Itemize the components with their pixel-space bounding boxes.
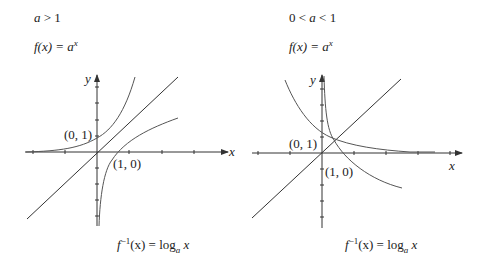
inverse-arg: (x) = log xyxy=(130,237,176,252)
y-axis-label: y xyxy=(308,72,316,87)
graphs-canvas: y x (0, 1) (1, 0) xyxy=(0,0,480,267)
inverse-function-left: f−1(x) = loga x xyxy=(117,236,189,255)
identity-line xyxy=(27,77,178,219)
point-0-1-label: (0, 1) xyxy=(289,136,317,151)
point-1-0-label: (1, 0) xyxy=(325,164,353,179)
log-var: x xyxy=(408,237,417,252)
inverse-exponent: −1 xyxy=(121,236,131,246)
x-axis-label: x xyxy=(448,158,455,173)
x-axis-label: x xyxy=(228,144,235,159)
inverse-function-right: f−1(x) = loga x xyxy=(345,236,417,255)
point-1-0-label: (1, 0) xyxy=(113,156,141,171)
inverse-exponent: −1 xyxy=(349,236,359,246)
y-axis-label: y xyxy=(83,71,91,86)
logarithm-curve xyxy=(99,118,178,226)
point-0-1-label: (0, 1) xyxy=(64,127,92,142)
log-var: x xyxy=(180,237,189,252)
left-graph: y x (0, 1) (1, 0) xyxy=(25,71,235,226)
inverse-arg: (x) = log xyxy=(358,237,404,252)
right-graph: y x (0, 1) (1, 0) xyxy=(252,72,462,228)
